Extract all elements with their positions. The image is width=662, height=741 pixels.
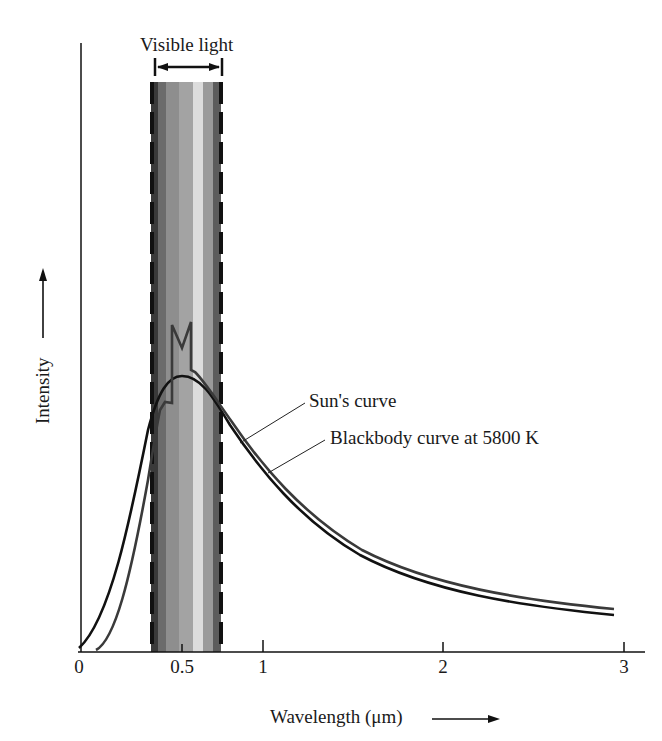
visible-band	[151, 82, 221, 652]
x-tick-0: 0	[74, 656, 84, 678]
x-ticks	[182, 640, 624, 652]
x-arrow-icon	[432, 715, 500, 723]
x-tick-3: 3	[619, 656, 629, 678]
sun-leader-line	[240, 403, 305, 443]
visible-light-label: Visible light	[140, 34, 233, 56]
blackbody-curve-label: Blackbody curve at 5800 K	[330, 427, 539, 449]
sun-curve-label: Sun's curve	[309, 390, 396, 412]
y-axis-label: Intensity	[32, 358, 54, 425]
y-arrow-icon	[39, 268, 47, 338]
visible-light-bracket	[155, 58, 222, 76]
x-tick-1: 1	[258, 656, 268, 678]
x-axis-label: Wavelength (μm)	[270, 706, 403, 728]
x-tick-2: 2	[438, 656, 448, 678]
blackbody-leader-line	[268, 440, 325, 473]
spectrum-chart	[0, 0, 662, 741]
x-tick-0-5: 0.5	[170, 656, 194, 678]
